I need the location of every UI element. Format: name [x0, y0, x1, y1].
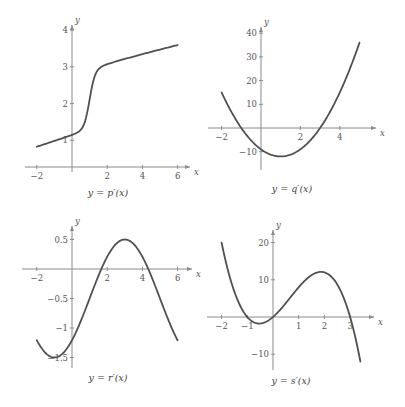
x-axis-label: x [196, 269, 201, 279]
x-axis-label: x [194, 167, 199, 177]
y-axis-label: y [263, 17, 269, 27]
graph-caption: y = s′(x) [270, 375, 310, 386]
x-tick-label: 4 [140, 273, 145, 283]
y-tick-label: 3 [63, 62, 68, 72]
x-tick-label: 1 [296, 321, 301, 331]
x-tick-label: −2 [31, 273, 44, 283]
y-tick-label: −10 [251, 349, 269, 359]
y-axis-arrow-icon [271, 230, 275, 235]
y-tick-label: −0.5 [47, 294, 68, 304]
x-tick-label: 4 [140, 171, 145, 181]
y-axis-label: y [275, 220, 281, 230]
x-tick-label: 6 [175, 273, 180, 283]
y-axis-arrow-icon [70, 25, 74, 30]
x-tick-label: 4 [337, 132, 342, 142]
x-tick-label: 2 [104, 273, 109, 283]
x-tick-label: −2 [31, 171, 44, 181]
derivative-graphs-figure: xy−22461234y = p′(x) xy−22440302010−10y … [0, 0, 405, 407]
graph-caption: y = p′(x) [87, 187, 129, 198]
x-axis-arrow-icon [371, 126, 376, 130]
x-axis-arrow-icon [185, 165, 190, 169]
y-tick-label: −10 [239, 147, 257, 157]
plot-r-prime: xy−22460.5−0.5−1−1.5y = r′(x) [22, 216, 201, 383]
x-tick-label: −1 [241, 321, 254, 331]
y-tick-label: 10 [258, 275, 269, 285]
x-tick-label: −2 [215, 132, 228, 142]
y-tick-label: 20 [246, 76, 257, 86]
plot-s-prime: xy−2−11232010−10y = s′(x) [207, 220, 383, 386]
function-curve [222, 243, 361, 362]
x-axis-label: x [380, 128, 385, 138]
y-tick-label: 40 [246, 28, 257, 38]
x-axis-label: x [378, 317, 383, 327]
y-tick-label: 4 [63, 25, 68, 35]
y-tick-label: −1 [55, 323, 68, 333]
function-curve [37, 45, 178, 147]
x-tick-label: 6 [175, 171, 180, 181]
y-tick-label: 0.5 [54, 235, 68, 245]
x-tick-label: −2 [215, 321, 228, 331]
plot-p-prime: xy−22461234y = p′(x) [25, 15, 199, 198]
graph-caption: y = q′(x) [271, 183, 313, 194]
y-axis-arrow-icon [70, 226, 74, 231]
graph-caption: y = r′(x) [88, 372, 128, 383]
y-tick-label: 20 [258, 238, 269, 248]
x-tick-label: 2 [104, 171, 109, 181]
y-axis-label: y [74, 216, 80, 226]
x-tick-label: 2 [322, 321, 327, 331]
x-axis-arrow-icon [187, 267, 192, 271]
plot-q-prime: xy−22440302010−10y = q′(x) [208, 17, 385, 194]
y-axis-arrow-icon [259, 27, 263, 32]
y-tick-label: 10 [246, 99, 257, 109]
y-tick-label: 30 [246, 52, 257, 62]
y-tick-label: 2 [63, 99, 68, 109]
x-tick-label: 2 [298, 132, 303, 142]
y-axis-label: y [74, 15, 80, 25]
x-axis-arrow-icon [369, 315, 374, 319]
